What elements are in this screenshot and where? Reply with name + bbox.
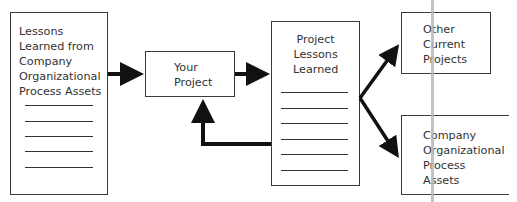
connector-arrows — [0, 0, 517, 202]
arrow-lessons-to-company-opa — [360, 98, 397, 155]
gray-vertical-divider — [431, 0, 434, 202]
arrow-lessons-to-other-projects — [360, 47, 397, 98]
arrow-lessons-to-your-project — [203, 103, 271, 144]
